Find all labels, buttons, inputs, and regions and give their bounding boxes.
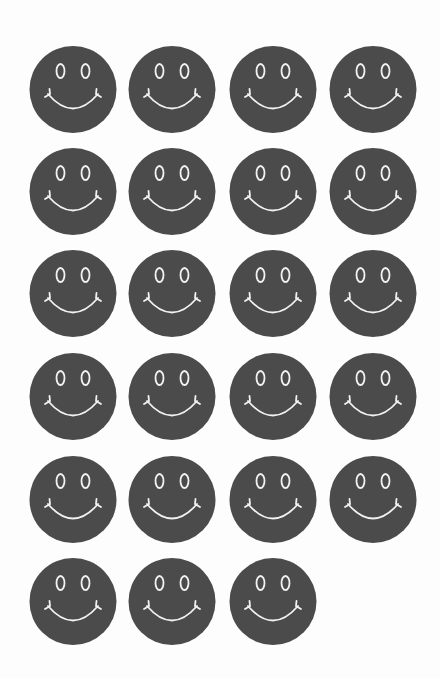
smiley-face-icon (229, 45, 317, 134)
smiley-face-icon (229, 147, 317, 236)
smiley-sticker-sheet (0, 0, 440, 678)
smiley-face-icon (229, 455, 317, 544)
smiley-face-icon (128, 45, 216, 134)
smiley-face-icon (329, 352, 417, 441)
smiley-face-icon (128, 352, 216, 441)
smiley-face-icon (128, 249, 216, 338)
smiley-face-icon (29, 249, 117, 338)
smiley-face-icon (329, 455, 417, 544)
smiley-face-icon (29, 455, 117, 544)
smiley-face-icon (329, 249, 417, 338)
smiley-face-icon (229, 352, 317, 441)
smiley-face-icon (329, 45, 417, 134)
smiley-face-icon (29, 352, 117, 441)
smiley-face-icon (128, 455, 216, 544)
smiley-face-icon (29, 557, 117, 646)
smiley-face-icon (229, 249, 317, 338)
smiley-face-icon (128, 147, 216, 236)
smiley-face-icon (128, 557, 216, 646)
smiley-face-icon (29, 147, 117, 236)
smiley-face-icon (329, 147, 417, 236)
smiley-face-icon (29, 45, 117, 134)
smiley-face-icon (229, 557, 317, 646)
